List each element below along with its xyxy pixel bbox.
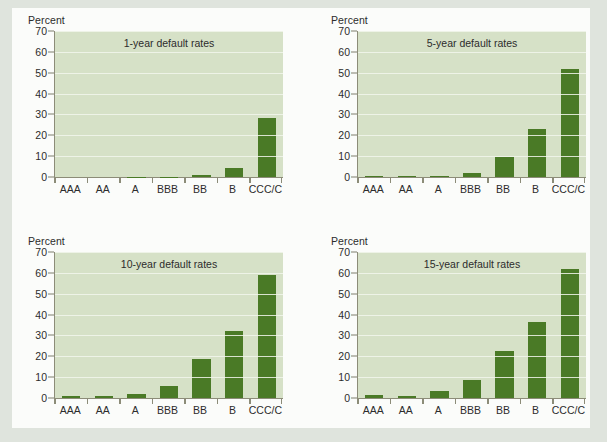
gridline (55, 156, 283, 157)
y-tick-label: 50 (35, 67, 47, 78)
bar (561, 269, 579, 398)
gridline (55, 252, 283, 253)
x-axis-label: BBB (151, 404, 183, 416)
plot-area-wrap-4: 010203040506070 15-year default rates AA… (329, 252, 591, 398)
x-axis-labels-4: AAAAAABBBBBBCCC/C (357, 404, 585, 416)
x-axis-label: B (519, 404, 551, 416)
y-tick-label: 20 (338, 130, 350, 141)
bar-cell (88, 252, 121, 398)
gridline (358, 273, 586, 274)
gridline (358, 73, 586, 74)
panel-15-year: Percent 010203040506070 15-year default … (303, 221, 607, 442)
y-tick-label: 10 (35, 151, 47, 162)
y-tick-labels-2: 010203040506070 (329, 31, 350, 177)
bar (430, 391, 448, 398)
bar-cell (250, 252, 283, 398)
gridline (358, 377, 586, 378)
y-tick-label: 30 (338, 330, 350, 341)
gridline (358, 356, 586, 357)
plot-area-3: 10-year default rates (54, 252, 283, 399)
y-tick-label: 10 (338, 151, 350, 162)
x-axis-label: A (119, 404, 151, 416)
x-axis-labels-1: AAAAAABBBBBBCCC/C (54, 183, 282, 195)
bars-1 (55, 31, 283, 177)
bar (225, 331, 243, 398)
x-axis-label: A (422, 183, 454, 195)
gridline (358, 135, 586, 136)
panel-grid: Percent 010203040506070 1-year default r… (0, 0, 607, 442)
x-axis-label: CCC/C (552, 183, 585, 195)
plot-area-wrap-1: 010203040506070 1-year default rates AAA… (26, 31, 288, 177)
gridline (358, 94, 586, 95)
bar-cell (553, 31, 586, 177)
gridline (358, 294, 586, 295)
bar (495, 351, 513, 398)
x-axis-label: A (422, 404, 454, 416)
bar-cell (456, 252, 489, 398)
bar-cell (120, 252, 153, 398)
gridline (55, 377, 283, 378)
y-tick-label: 30 (338, 109, 350, 120)
x-axis-label: CCC/C (552, 404, 585, 416)
bar (192, 359, 210, 398)
bar-cell (358, 252, 391, 398)
bars-2 (358, 31, 586, 177)
gridline (55, 335, 283, 336)
bar-cell (423, 252, 456, 398)
bar-cell (55, 252, 88, 398)
y-tick-label: 0 (344, 393, 350, 404)
x-axis-label: A (119, 183, 151, 195)
plot-area-2: 5-year default rates (357, 31, 586, 178)
bar (528, 322, 546, 398)
bar-cell (153, 31, 186, 177)
y-tick-label: 20 (338, 351, 350, 362)
bar (258, 118, 276, 177)
bar-cell (185, 252, 218, 398)
bar-cell (521, 252, 554, 398)
bar-cell (391, 252, 424, 398)
panel-1-year: Percent 010203040506070 1-year default r… (0, 0, 303, 221)
y-tick-label: 40 (35, 309, 47, 320)
y-tick-label: 70 (35, 26, 47, 37)
bar-cell (88, 31, 121, 177)
y-tick-label: 50 (338, 288, 350, 299)
gridline (55, 356, 283, 357)
default-rates-figure: Percent 010203040506070 1-year default r… (0, 0, 607, 442)
y-tick-label: 0 (344, 172, 350, 183)
plot-area-1: 1-year default rates (54, 31, 283, 178)
y-tick-label: 30 (35, 330, 47, 341)
gridline (55, 273, 283, 274)
x-axis-label: BBB (151, 183, 183, 195)
y-tick-labels-4: 010203040506070 (329, 252, 350, 398)
y-tick-label: 60 (35, 47, 47, 58)
y-tick-label: 40 (338, 88, 350, 99)
x-axis-label: B (519, 183, 551, 195)
bar-cell (358, 31, 391, 177)
bar (463, 380, 481, 398)
gridline (358, 335, 586, 336)
x-axis-label: AAA (357, 404, 389, 416)
gridline (358, 252, 586, 253)
gridline (55, 94, 283, 95)
panel-10-year: Percent 010203040506070 10-year default … (0, 221, 303, 442)
x-axis-labels-3: AAAAAABBBBBBCCC/C (54, 404, 282, 416)
bar-cell (423, 31, 456, 177)
bar-cell (391, 31, 424, 177)
panel-5-year: Percent 010203040506070 5-year default r… (303, 0, 607, 221)
gridline (358, 315, 586, 316)
y-tick-label: 60 (338, 268, 350, 279)
plot-area-wrap-3: 010203040506070 10-year default rates AA… (26, 252, 288, 398)
y-tick-label: 40 (338, 309, 350, 320)
bar (160, 386, 178, 399)
y-tick-label: 10 (35, 372, 47, 383)
x-axis-label: AA (389, 404, 421, 416)
y-tick-label: 70 (338, 247, 350, 258)
x-axis-label: BBB (454, 404, 486, 416)
plot-area-4: 15-year default rates (357, 252, 586, 399)
x-axis-label: BB (487, 183, 519, 195)
bar-cell (250, 31, 283, 177)
bar-cell (456, 31, 489, 177)
y-tick-label: 60 (338, 47, 350, 58)
gridline (55, 31, 283, 32)
y-tick-label: 60 (35, 268, 47, 279)
